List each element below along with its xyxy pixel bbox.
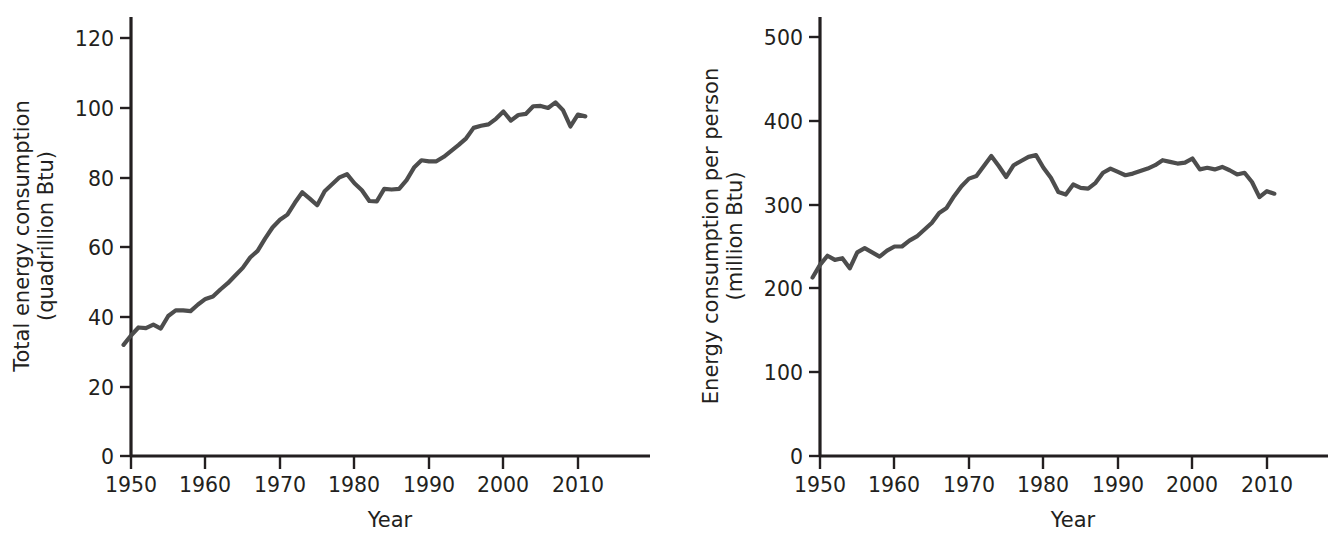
right-xtick-label-1950: 1950 xyxy=(794,473,846,497)
right-data-line xyxy=(813,155,1275,277)
right-ytick-label-500: 500 xyxy=(764,26,803,50)
right-ytick-label-200: 200 xyxy=(764,277,803,301)
left-x-axis-title: Year xyxy=(367,508,413,532)
right-ytick-label-0: 0 xyxy=(790,445,803,469)
total-energy-consumption-chart: 120 100 80 60 40 20 0 1950 1960 1970 198… xyxy=(0,0,668,539)
left-ytick-label-60: 60 xyxy=(88,236,114,260)
right-x-axis-title: Year xyxy=(1050,508,1096,532)
right-xtick-label-1960: 1960 xyxy=(868,473,920,497)
right-xtick-label-1970: 1970 xyxy=(943,473,995,497)
left-ytick-label-100: 100 xyxy=(75,97,114,121)
left-ytick-label-0: 0 xyxy=(101,445,114,469)
right-ytick-label-300: 300 xyxy=(764,194,803,218)
left-data-line xyxy=(124,102,586,344)
right-x-ticks xyxy=(820,456,1267,469)
left-ytick-label-20: 20 xyxy=(88,376,114,400)
right-xtick-label-1990: 1990 xyxy=(1092,473,1144,497)
left-ytick-label-40: 40 xyxy=(88,306,114,330)
left-ytick-label-120: 120 xyxy=(75,27,114,51)
left-ytick-label-80: 80 xyxy=(88,167,114,191)
right-xtick-label-2000: 2000 xyxy=(1166,473,1218,497)
left-xtick-label-1990: 1990 xyxy=(403,473,455,497)
left-xtick-label-2010: 2010 xyxy=(552,473,604,497)
left-xtick-label-2000: 2000 xyxy=(477,473,529,497)
left-y-ticks xyxy=(120,38,131,456)
left-xtick-label-1980: 1980 xyxy=(328,473,380,497)
left-xtick-label-1960: 1960 xyxy=(179,473,231,497)
right-ytick-label-400: 400 xyxy=(764,110,803,134)
left-xtick-label-1970: 1970 xyxy=(254,473,306,497)
left-y-axis-title-line2: (quadrillion Btu) xyxy=(34,151,58,321)
right-y-ticks xyxy=(809,37,820,456)
left-x-ticks xyxy=(131,456,578,469)
right-y-axis-title-line2: (million Btu) xyxy=(723,172,747,301)
left-y-axis-title-line1: Total energy consumption xyxy=(10,100,34,373)
energy-consumption-per-person-chart: 500 400 300 200 100 0 1950 1960 1970 198… xyxy=(668,0,1336,539)
left-chart-svg: 120 100 80 60 40 20 0 1950 1960 1970 198… xyxy=(0,0,668,539)
right-xtick-label-2010: 2010 xyxy=(1241,473,1293,497)
right-xtick-label-1980: 1980 xyxy=(1017,473,1069,497)
right-y-axis-title-line1: Energy consumption per person xyxy=(699,68,723,404)
figure-container: 120 100 80 60 40 20 0 1950 1960 1970 198… xyxy=(0,0,1336,539)
right-chart-svg: 500 400 300 200 100 0 1950 1960 1970 198… xyxy=(668,0,1336,539)
left-xtick-label-1950: 1950 xyxy=(105,473,157,497)
right-ytick-label-100: 100 xyxy=(764,361,803,385)
